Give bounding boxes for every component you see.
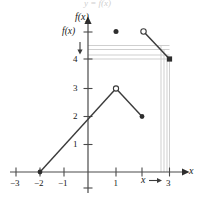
limit-approach-label: x xyxy=(141,175,145,185)
graph-canvas xyxy=(0,0,198,198)
closed-point-2-2 xyxy=(140,114,145,119)
x-axis-label: x xyxy=(189,166,193,176)
open-point-1-3 xyxy=(113,86,118,91)
y-axis-label: f(x) xyxy=(75,12,89,22)
y-tick-label-2: 2 xyxy=(73,112,78,121)
x-right-arrow-icon xyxy=(149,178,162,183)
curve-falling-branch xyxy=(116,89,142,117)
closed-point-neg2-0 xyxy=(38,170,43,175)
limit-value-label: f(x) xyxy=(62,27,75,37)
isolated-dot-1-5 xyxy=(114,29,119,34)
y-tick-label-1: 1 xyxy=(73,140,78,149)
open-point-2p5-5 xyxy=(141,29,146,34)
x-tick-label-3: 3 xyxy=(166,179,171,188)
horizontal-guide-lines xyxy=(88,46,170,60)
vertical-guide-lines xyxy=(161,46,170,173)
y-tick-label-4: 4 xyxy=(73,55,78,64)
x-tick-label-neg3: −3 xyxy=(10,179,20,188)
curve-rising-branch xyxy=(40,89,116,173)
faint-figure-title: y = f(x) xyxy=(84,0,111,8)
limit-graph-figure: y = f(x) f(x) x f(x) x 1 2 3 4 −3 −2 −1 … xyxy=(0,0,198,198)
x-tick-label-1: 1 xyxy=(114,179,119,188)
y-tick-label-3: 3 xyxy=(73,84,78,93)
x-tick-label-neg1: −1 xyxy=(58,179,68,188)
closed-point-3-4 xyxy=(167,56,172,61)
fx-down-arrow-icon xyxy=(77,42,82,55)
x-tick-label-neg2: −2 xyxy=(34,179,44,188)
